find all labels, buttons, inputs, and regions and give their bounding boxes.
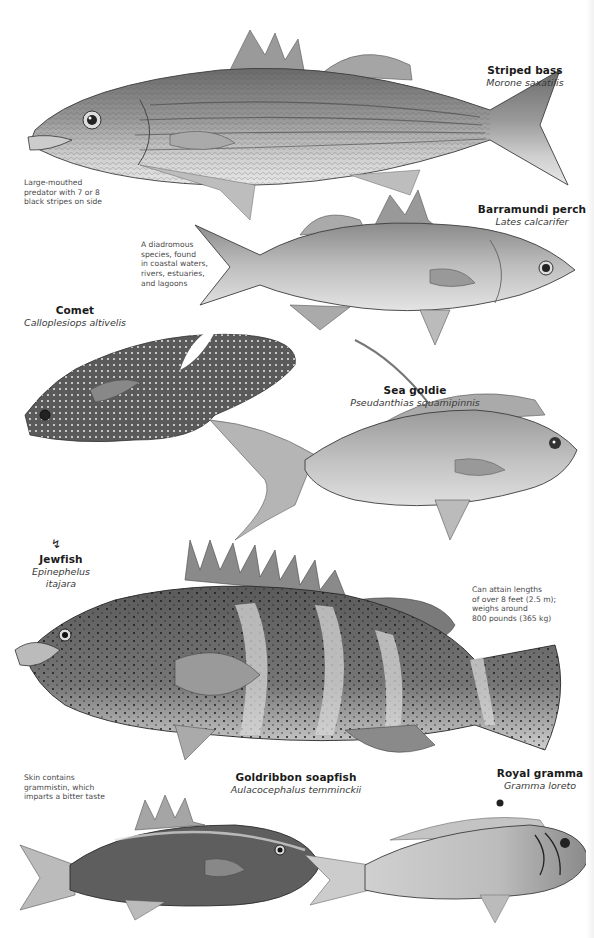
striped-bass-scientific-name: Morone saxatilis	[470, 77, 580, 89]
striped-bass-note: Large-mouthed predator with 7 or 8 black…	[24, 178, 102, 207]
royal-gramma-scientific-name: Gramma loreto	[490, 780, 590, 792]
barramundi-perch-common-name: Barramundi perch	[470, 203, 594, 216]
sea-goldie-scientific-name: Pseudanthias squamipinnis	[350, 397, 480, 409]
royal-gramma-illustration	[300, 795, 590, 925]
jewfish-note: Can attain lengths of over 8 feet (2.5 m…	[472, 585, 556, 624]
striped-bass-label: Striped bass Morone saxatilis	[470, 64, 580, 89]
comet-label: Comet Calloplesiops altivelis	[20, 304, 130, 329]
goldribbon-soapfish-scientific-name: Aulacocephalus temminckii	[226, 784, 366, 796]
royal-gramma-common-name: Royal gramma	[490, 767, 590, 780]
goldribbon-soapfish-illustration	[15, 790, 325, 920]
fish-illustration-page: Striped bass Morone saxatilis Large-mout…	[0, 0, 594, 938]
barramundi-perch-label: Barramundi perch Lates calcarifer	[470, 203, 594, 228]
sea-goldie-label: Sea goldie Pseudanthias squamipinnis	[350, 384, 480, 409]
comet-scientific-name: Calloplesiops altivelis	[20, 317, 130, 329]
goldribbon-soapfish-label: Goldribbon soapfish Aulacocephalus temmi…	[226, 771, 366, 796]
striped-bass-common-name: Striped bass	[470, 64, 580, 77]
page-gutter-shadow	[586, 0, 594, 938]
danger-symbol-icon: ↯	[51, 537, 61, 551]
comet-common-name: Comet	[20, 304, 130, 317]
goldribbon-soapfish-common-name: Goldribbon soapfish	[226, 771, 366, 784]
jewfish-common-name: Jewfish	[16, 553, 106, 566]
sea-goldie-illustration	[205, 340, 590, 545]
sea-goldie-common-name: Sea goldie	[350, 384, 480, 397]
royal-gramma-label: Royal gramma Gramma loreto	[490, 767, 590, 792]
barramundi-perch-scientific-name: Lates calcarifer	[470, 216, 594, 228]
goldribbon-soapfish-note: Skin contains grammistin, which imparts …	[24, 773, 105, 802]
barramundi-perch-note: A diadromous species, found in coastal w…	[141, 240, 208, 289]
jewfish-scientific-name: Epinephelus itajara	[16, 566, 106, 590]
jewfish-label: Jewfish Epinephelus itajara	[16, 553, 106, 590]
